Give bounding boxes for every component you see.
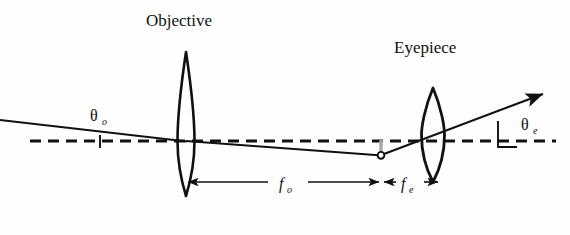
- optics-diagram-canvas: Objective Eyepiece θ o θ e f o f e: [0, 0, 570, 235]
- telescope-ray-diagram: Objective Eyepiece θ o θ e f o f e: [0, 0, 570, 235]
- theta-o-subscript: o: [102, 116, 107, 127]
- f-objective-subscript: o: [287, 184, 292, 195]
- intermediate-image-point: [378, 152, 385, 159]
- eyepiece-label: Eyepiece: [394, 38, 456, 57]
- f-eyepiece-subscript: e: [409, 184, 414, 195]
- theta-o-symbol: θ: [90, 107, 98, 124]
- theta-e-subscript: e: [533, 125, 538, 136]
- objective-label: Objective: [146, 11, 212, 30]
- diagram-background: [0, 0, 570, 235]
- theta-e-symbol: θ: [521, 116, 529, 133]
